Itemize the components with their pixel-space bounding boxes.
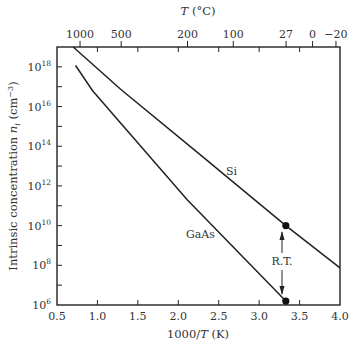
x-tick-label: 1.5: [129, 310, 147, 323]
y-tick-label: 108: [32, 257, 51, 272]
y-tick-label: 1018: [27, 59, 51, 74]
gaas-room-temp-marker: [282, 297, 289, 304]
x-tick-label: 2.0: [170, 310, 188, 323]
top-tick-label: 1000: [66, 28, 94, 41]
bottom-axis-title: 1000/T (K): [167, 327, 229, 341]
top-tick-label: 500: [111, 28, 132, 41]
x-tick-label: 2.5: [210, 310, 228, 323]
y-tick-label: 1010: [27, 218, 51, 233]
top-tick-label: −20: [324, 28, 347, 41]
gaas-curve: [76, 66, 286, 302]
top-axis-ticks: 1000500200100270−20: [66, 28, 348, 52]
top-tick-label: 0: [309, 28, 316, 41]
x-tick-label: 3.5: [291, 310, 309, 323]
top-tick-label: 100: [223, 28, 244, 41]
si-room-temp-marker: [282, 222, 289, 229]
x-tick-label: 3.0: [250, 310, 268, 323]
gaas-curve-label: GaAs: [186, 228, 215, 241]
y-tick-label: 1012: [27, 178, 51, 193]
y-tick-label: 1014: [27, 138, 51, 153]
x-tick-label: 4.0: [331, 310, 349, 323]
top-tick-label: 27: [279, 28, 293, 41]
top-axis-title: T (°C): [181, 4, 216, 18]
rt-label: R.T.: [272, 255, 293, 268]
x-tick-label: 1.0: [89, 310, 107, 323]
top-tick-label: 200: [177, 28, 198, 41]
x-tick-label: 0.5: [48, 310, 66, 323]
y-axis-title: Intrinsic concentration ni (cm−3): [6, 81, 22, 270]
si-curve-label: Si: [226, 165, 238, 178]
curves: [73, 47, 340, 305]
intrinsic-concentration-chart: 0.51.01.52.02.53.03.54.0 100050020010027…: [0, 0, 355, 348]
arrow-down-icon: [280, 286, 285, 295]
arrow-up-icon: [280, 231, 285, 240]
y-tick-label: 1016: [27, 99, 51, 114]
bottom-axis-ticks: 0.51.01.52.02.53.03.54.0: [48, 300, 349, 323]
